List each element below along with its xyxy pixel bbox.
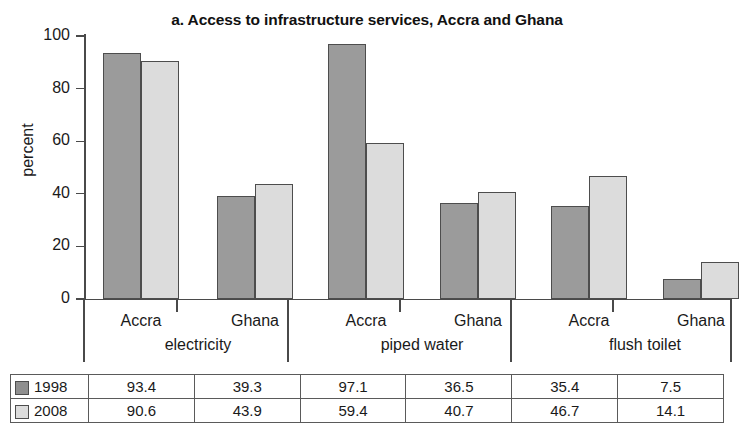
x-axis-tick: [612, 300, 613, 312]
x-axis-sub-label-ghana-5: Ghana: [651, 312, 743, 330]
table-cell-2008-flush-toilet-accra: 46.7: [512, 399, 618, 423]
x-axis-group-separator: [510, 300, 511, 362]
x-axis-sub-label-accra-0: Accra: [91, 312, 191, 330]
x-axis-group-separator: [287, 300, 288, 362]
y-axis-tick-label: 20: [0, 236, 70, 254]
y-axis-tick: [76, 246, 84, 247]
table-cell-1998-flush-toilet-accra: 35.4: [512, 375, 618, 399]
x-axis-sub-label-ghana-3: Ghana: [428, 312, 528, 330]
bar-2008-piped-water-ghana: [478, 192, 516, 299]
y-axis-tick-label: 60: [0, 131, 70, 149]
table-cell-2008-flush-toilet-ghana: 14.1: [618, 399, 724, 423]
y-axis-tick-label: 100: [0, 26, 70, 44]
bar-2008-piped-water-accra: [366, 143, 404, 299]
bar-2008-electricity-ghana: [255, 184, 293, 299]
x-axis-group-label-flush-toilet: flush toilet: [565, 336, 725, 354]
y-axis-title: percent: [19, 105, 37, 195]
table-cell-2008-electricity-accra: 90.6: [89, 399, 195, 423]
legend-swatch-icon-2008: [15, 405, 29, 419]
x-axis-sub-label-accra-2: Accra: [316, 312, 416, 330]
y-axis-tick: [76, 88, 84, 89]
y-axis-tick-label: 0: [0, 289, 70, 307]
bar-1998-electricity-accra: [103, 53, 141, 299]
bar-2008-flush-toilet-accra: [589, 176, 627, 299]
data-table: 199893.439.397.136.535.47.5200890.643.95…: [10, 374, 724, 423]
table-cell-2008-piped-water-accra: 59.4: [300, 399, 406, 423]
table-row: 200890.643.959.440.746.714.1: [11, 399, 724, 423]
bar-1998-flush-toilet-ghana: [663, 279, 701, 299]
x-axis-group-label-piped-water: piped water: [342, 336, 502, 354]
plot-area: [84, 36, 726, 299]
legend-swatch-icon-1998: [15, 381, 29, 395]
bar-2008-electricity-accra: [141, 61, 179, 299]
chart-title: a. Access to infrastructure services, Ac…: [0, 11, 734, 29]
x-axis-group-separator: [730, 300, 731, 362]
bar-1998-piped-water-accra: [328, 44, 366, 299]
y-axis-tick: [76, 141, 84, 142]
x-axis-tick: [399, 300, 400, 312]
legend-label-2008: 2008: [34, 402, 67, 419]
legend-cell-1998: 1998: [11, 375, 89, 399]
table-row: 199893.439.397.136.535.47.5: [11, 375, 724, 399]
table-cell-1998-piped-water-ghana: 36.5: [406, 375, 512, 399]
table-cell-2008-piped-water-ghana: 40.7: [406, 399, 512, 423]
bar-2008-flush-toilet-ghana: [701, 262, 739, 299]
x-axis-group-label-electricity: electricity: [118, 336, 278, 354]
x-axis-sub-label-ghana-1: Ghana: [205, 312, 305, 330]
x-axis-group-separator: [83, 300, 84, 362]
table-cell-1998-electricity-accra: 93.4: [89, 375, 195, 399]
bar-1998-piped-water-ghana: [440, 203, 478, 299]
legend-label-1998: 1998: [34, 378, 67, 395]
table-cell-1998-flush-toilet-ghana: 7.5: [618, 375, 724, 399]
bar-1998-electricity-ghana: [217, 196, 255, 299]
y-axis-tick: [76, 35, 84, 36]
table-cell-2008-electricity-ghana: 43.9: [194, 399, 300, 423]
table-cell-1998-electricity-ghana: 39.3: [194, 375, 300, 399]
y-axis-tick-label: 80: [0, 79, 70, 97]
x-axis-tick: [176, 300, 177, 312]
x-axis-sub-label-accra-4: Accra: [539, 312, 639, 330]
legend-cell-2008: 2008: [11, 399, 89, 423]
table-cell-1998-piped-water-accra: 97.1: [300, 375, 406, 399]
bar-1998-flush-toilet-accra: [551, 206, 589, 299]
y-axis-tick-label: 40: [0, 184, 70, 202]
y-axis-tick: [76, 193, 84, 194]
